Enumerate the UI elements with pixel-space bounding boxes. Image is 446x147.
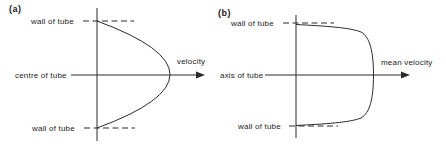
panel-b-mean-velocity-arrowhead-icon [401,71,410,78]
panel-a-velocity-axis-label: velocity [177,57,205,66]
panel-a-centre-of-tube-label: centre of tube [15,71,67,80]
panel-b-tag: (b) [218,8,231,18]
panel-a-wall-top-label: wall of tube [31,17,74,26]
panel-b-mean-velocity-axis-label: mean velocity [381,58,433,67]
panel-b-wall-bottom-label: wall of tube [238,122,281,131]
panel-a-velocity-arrowhead-icon [196,71,205,78]
panel-a-wall-bottom-label: wall of tube [32,124,75,133]
velocity-profile-figure: (a) wall of tube centre of tube velocity… [0,0,446,147]
panel-b-wall-top-label: wall of tube [231,19,274,28]
panel-a-tag: (a) [9,4,22,14]
panel-b-axis-of-tube-label: axis of tube [220,71,263,80]
